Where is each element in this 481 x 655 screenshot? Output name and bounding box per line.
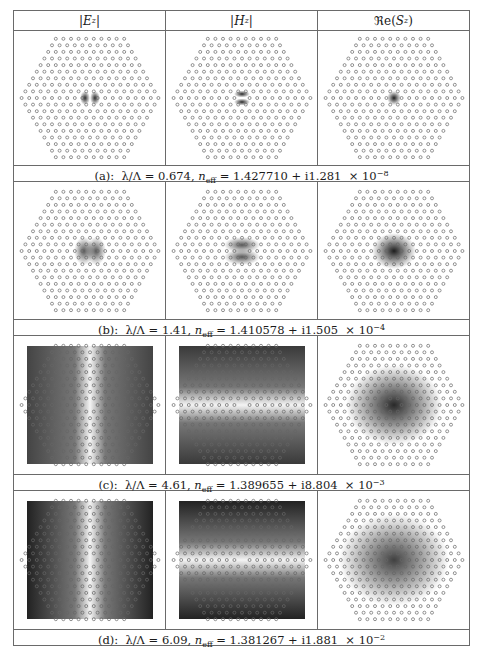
panel-c-hz (166, 336, 318, 474)
column-header-row: |Ez| |Hz| ℜe(Sz) (14, 11, 469, 31)
column-header-ez: |Ez| (14, 11, 166, 30)
panel-row-a (14, 31, 469, 166)
panel-d-sz (318, 491, 469, 629)
panel-row-c (14, 336, 469, 475)
panel-c-sz (318, 336, 469, 474)
panel-a-ez (14, 31, 166, 165)
caption-d: (d): λ/Λ = 6.09, neff = 1.381267 + i1.88… (14, 630, 469, 645)
caption-c: (c): λ/Λ = 4.61, neff = 1.389655 + i8.80… (14, 475, 469, 491)
caption-a: (a): λ/Λ = 0.674, neff = 1.427710 + i1.2… (14, 166, 469, 182)
panel-a-sz (318, 31, 469, 165)
column-header-hz: |Hz| (166, 11, 318, 30)
panel-row-d (14, 491, 469, 630)
panel-b-ez (14, 182, 166, 319)
panel-d-hz (166, 491, 318, 629)
column-header-sz: ℜe(Sz) (318, 11, 469, 30)
panel-b-sz (318, 182, 469, 319)
figure-table: |Ez| |Hz| ℜe(Sz) (a): λ/Λ = 0.674, neff … (13, 10, 470, 646)
panel-d-ez (14, 491, 166, 629)
caption-b: (b): λ/Λ = 1.41, neff = 1.410578 + i1.50… (14, 320, 469, 336)
panel-row-b (14, 182, 469, 320)
panel-a-hz (166, 31, 318, 165)
panel-c-ez (14, 336, 166, 474)
panel-b-hz (166, 182, 318, 319)
